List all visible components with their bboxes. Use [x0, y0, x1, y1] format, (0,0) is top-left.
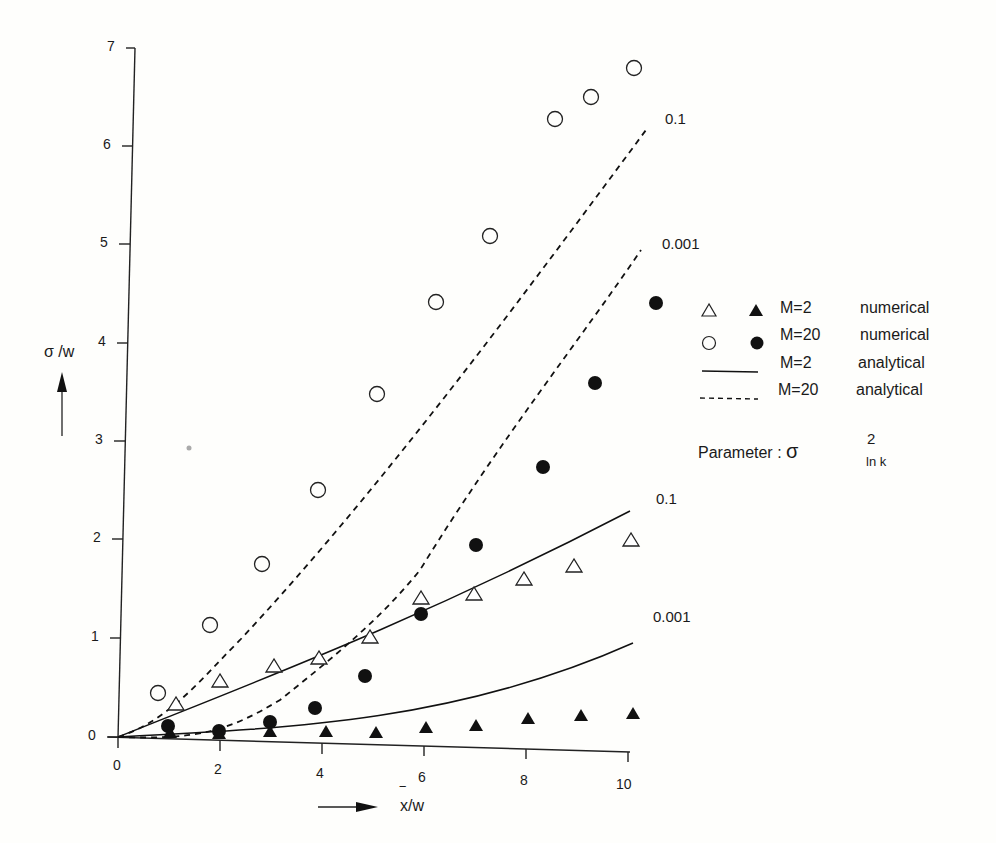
- x-tick-0: 0: [113, 757, 121, 773]
- y-axis-label: σ /w: [44, 343, 74, 361]
- y-tick-7: 7: [107, 38, 115, 54]
- stray-dot: [187, 446, 192, 451]
- legend-model: M=2: [780, 299, 812, 317]
- legend-solid-line-icon: [702, 371, 758, 372]
- x-bar: ‾: [400, 785, 405, 803]
- legend-open-circle-icon: [703, 337, 716, 350]
- curve-label-dashed-0.001: 0.001: [662, 235, 700, 252]
- y-tick-2: 2: [93, 529, 101, 545]
- legend-symbols: [700, 304, 764, 399]
- curve-label-dashed-0.1: 0.1: [665, 110, 686, 127]
- legend-filled-triangle-icon: [749, 304, 763, 316]
- chart-plot-area: [0, 0, 996, 843]
- legend-model: M=20: [778, 381, 818, 399]
- y-tick-1: 1: [91, 628, 99, 644]
- x-tick-4: 4: [316, 765, 324, 781]
- curve-label-solid-0.001: 0.001: [653, 608, 691, 625]
- x-axis-label: ‾ x/w: [400, 797, 424, 815]
- parameter-label: Parameter :: [698, 444, 782, 461]
- legend-type: numerical: [860, 326, 929, 344]
- y-axis-arrow-icon: [57, 372, 67, 436]
- series-m2-numerical-0.1: [168, 533, 639, 710]
- series-m20-numerical-0.001: [161, 296, 663, 738]
- legend-model: M=20: [780, 326, 820, 344]
- legend-type: analytical: [856, 381, 923, 399]
- curve-label-solid-0.1: 0.1: [656, 490, 677, 507]
- y-tick-6: 6: [103, 136, 111, 152]
- y-axis: [107, 48, 135, 738]
- y-tick-0: 0: [88, 727, 96, 743]
- x-tick-8: 8: [520, 772, 528, 788]
- curve-m20-analytical-0.1: [118, 130, 646, 737]
- parameter-annotation: Parameter : σ 2 ln k: [698, 440, 798, 463]
- x-axis-arrow-icon: [318, 802, 378, 812]
- x-tick-2: 2: [214, 761, 222, 777]
- series-m20-numerical-0.1: [151, 61, 642, 701]
- legend-type: numerical: [860, 299, 929, 317]
- curve-m2-analytical-0.1: [118, 511, 630, 737]
- y-tick-4: 4: [98, 333, 106, 349]
- legend-type: analytical: [858, 354, 925, 372]
- x-axis: [108, 737, 630, 762]
- legend-dashed-line-icon: [700, 398, 758, 399]
- legend-open-triangle-icon: [702, 304, 716, 316]
- curve-m2-analytical-0.001: [118, 643, 633, 737]
- parameter-sigma: σ: [786, 440, 798, 462]
- y-tick-5: 5: [100, 234, 108, 250]
- legend-filled-circle-icon: [751, 337, 764, 350]
- x-tick-10: 10: [616, 776, 632, 792]
- x-tick-6: 6: [418, 769, 426, 785]
- curve-m20-analytical-0.001: [118, 250, 641, 738]
- parameter-superscript: 2: [867, 430, 875, 447]
- legend-model: M=2: [780, 354, 812, 372]
- parameter-subscript: ln k: [866, 454, 886, 469]
- y-tick-3: 3: [95, 431, 103, 447]
